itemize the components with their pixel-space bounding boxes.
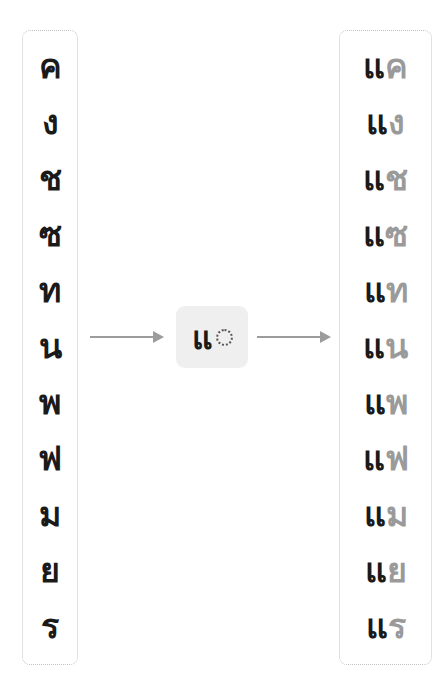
syllable: แน xyxy=(340,318,431,374)
vowel: แ xyxy=(364,273,386,307)
consonant: ค xyxy=(23,38,77,94)
vowel: แ xyxy=(363,441,385,475)
arrow-right-icon xyxy=(90,336,162,338)
consonant: ร xyxy=(388,609,406,643)
vowel: แ xyxy=(363,217,385,251)
consonant: ฟ xyxy=(23,430,77,486)
vowel-template-box: แ xyxy=(176,306,248,368)
vowel: แ xyxy=(366,105,388,139)
syllable: แง xyxy=(340,94,431,150)
consonant: ค xyxy=(385,49,408,83)
syllable: แช xyxy=(340,150,431,206)
consonant: ฟ xyxy=(385,441,409,475)
consonant: พ xyxy=(23,374,77,430)
consonant: น xyxy=(385,329,408,363)
consonant: ม xyxy=(386,497,408,531)
vowel: แ xyxy=(364,497,386,531)
arrow-right-icon xyxy=(257,336,329,338)
vowel: แ xyxy=(363,49,385,83)
vowel: แ xyxy=(364,385,386,419)
input-consonant-column: ค ง ช ซ ท น พ ฟ ม ย ร xyxy=(22,30,78,665)
consonant: ท xyxy=(386,273,408,307)
consonant: ร xyxy=(23,598,77,654)
syllable: แร xyxy=(340,598,431,654)
syllable: แพ xyxy=(340,374,431,430)
syllable: แม xyxy=(340,486,431,542)
syllable: แท xyxy=(340,262,431,318)
consonant: ช xyxy=(23,150,77,206)
consonant: ซ xyxy=(385,217,408,251)
vowel: แ xyxy=(365,553,387,587)
vowel-glyph: แ xyxy=(192,312,213,363)
consonant: ย xyxy=(387,553,407,587)
syllable: แค xyxy=(340,38,431,94)
syllable: แย xyxy=(340,542,431,598)
output-syllable-column: แค แง แช แซ แท แน แพ แฟ แม แย แร xyxy=(339,30,432,665)
consonant: ซ xyxy=(23,206,77,262)
vowel: แ xyxy=(363,329,385,363)
consonant: ท xyxy=(23,262,77,318)
consonant: ม xyxy=(23,486,77,542)
syllable: แซ xyxy=(340,206,431,262)
consonant: น xyxy=(23,318,77,374)
dotted-circle-icon xyxy=(216,329,233,346)
syllable: แฟ xyxy=(340,430,431,486)
consonant: ง xyxy=(388,105,405,139)
consonant: ง xyxy=(23,94,77,150)
consonant: พ xyxy=(386,385,408,419)
consonant: ช xyxy=(385,161,408,195)
vowel: แ xyxy=(363,161,385,195)
vowel: แ xyxy=(366,609,388,643)
consonant: ย xyxy=(23,542,77,598)
